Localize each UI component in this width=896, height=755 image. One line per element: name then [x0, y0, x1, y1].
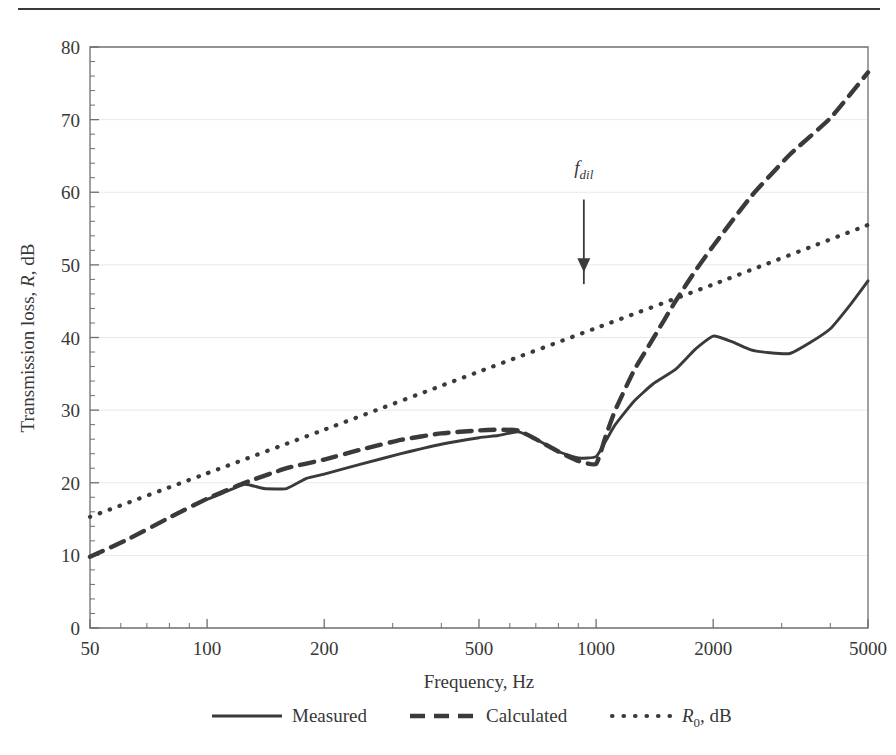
- x-tick-label: 200: [310, 638, 339, 659]
- y-tick-label: 20: [61, 473, 80, 494]
- series-calculated-line: [90, 72, 868, 556]
- legend-label[interactable]: R0, dB: [681, 705, 732, 730]
- x-tick-label: 500: [465, 638, 494, 659]
- y-tick-label: 0: [71, 618, 81, 639]
- x-tick-label: 2000: [694, 638, 732, 659]
- transmission-loss-chart: 01020304050607080 5010020050010002000500…: [0, 0, 896, 755]
- x-axis-major-ticks: [90, 619, 868, 628]
- series-r0-line: [90, 225, 868, 517]
- x-axis-title: Frequency, Hz: [424, 671, 535, 692]
- chart-figure: 01020304050607080 5010020050010002000500…: [0, 0, 896, 755]
- y-tick-label: 50: [61, 255, 80, 276]
- fdil-subscript: dil: [580, 167, 594, 182]
- y-tick-label: 30: [61, 400, 80, 421]
- y-tick-label: 60: [61, 182, 80, 203]
- data-series-layer: [90, 72, 868, 556]
- series-measured-line: [207, 281, 868, 500]
- x-tick-label: 1000: [577, 638, 615, 659]
- y-tick-label: 40: [61, 328, 80, 349]
- x-tick-label: 100: [193, 638, 222, 659]
- fdil-label: fdil: [574, 157, 593, 182]
- y-tick-label: 10: [61, 545, 80, 566]
- x-axis-tick-labels: 50100200500100020005000: [81, 638, 888, 659]
- y-axis-title: Transmission loss, R, dB: [17, 244, 38, 433]
- x-axis-minor-ticks: [121, 623, 831, 628]
- y-tick-label: 70: [61, 110, 80, 131]
- legend-label[interactable]: Calculated: [486, 705, 568, 726]
- figure-page: 01020304050607080 5010020050010002000500…: [0, 0, 896, 755]
- gridlines: [91, 120, 867, 556]
- y-axis-tick-labels: 01020304050607080: [61, 37, 80, 639]
- x-tick-label: 50: [81, 638, 100, 659]
- legend-label[interactable]: Measured: [292, 705, 367, 726]
- y-tick-label: 80: [61, 37, 80, 58]
- x-tick-label: 5000: [849, 638, 887, 659]
- chart-legend: MeasuredCalculatedR0, dB: [212, 705, 732, 730]
